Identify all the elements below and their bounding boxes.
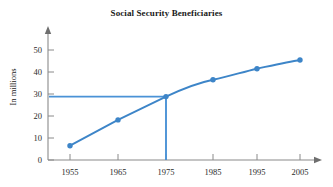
x-tick-label-1995: 1995 — [249, 167, 266, 177]
data-point-1975 — [163, 94, 168, 99]
data-point-1985 — [210, 77, 215, 82]
data-point-1965 — [115, 117, 120, 122]
data-point-2005 — [297, 57, 302, 62]
y-axis-arrow-icon — [45, 26, 51, 34]
y-tick-label-30: 30 — [34, 89, 43, 99]
y-tick-label-40: 40 — [34, 67, 43, 77]
x-axis — [48, 157, 322, 163]
y-tick-label-50: 50 — [34, 45, 43, 55]
y-axis — [45, 26, 51, 160]
x-tick-label-1975: 1975 — [158, 167, 175, 177]
x-axis-arrow-icon — [314, 157, 322, 163]
x-axis-ticks — [70, 154, 300, 160]
x-tick-label-1955: 1955 — [62, 167, 79, 177]
chart-plot-area: 0 10 20 30 40 50 1955 1965 1975 1985 199… — [0, 0, 333, 187]
y-axis-ticks — [48, 50, 54, 160]
y-tick-label-20: 20 — [34, 111, 43, 121]
x-tick-label-2005: 2005 — [292, 167, 309, 177]
data-point-1955 — [67, 143, 72, 148]
chart-screenshot: Social Security Beneficiaries In million… — [0, 0, 333, 187]
data-series-line — [70, 60, 300, 146]
x-tick-label-1985: 1985 — [205, 167, 222, 177]
y-tick-label-10: 10 — [34, 133, 43, 143]
data-point-1995 — [254, 66, 259, 71]
x-tick-label-1965: 1965 — [110, 167, 127, 177]
y-tick-label-0: 0 — [38, 155, 42, 165]
